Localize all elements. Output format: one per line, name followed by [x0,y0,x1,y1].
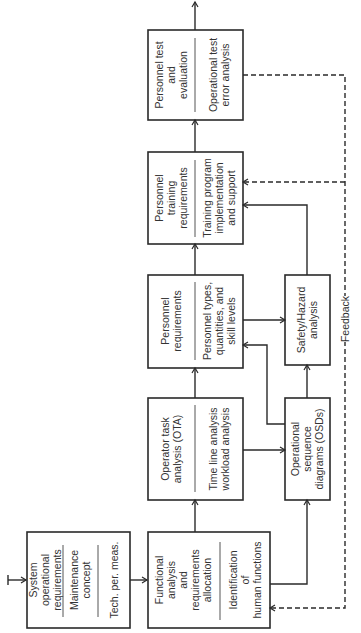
personnel-to-safety-arrow [243,317,285,323]
osd-to-safety-arrow [304,365,310,398]
ota-subtitle: Time line analysisworkload analysis [207,407,231,491]
input-arrow [8,575,26,585]
personnel-req-title: Personnelrequirements [159,290,183,351]
test-eval-subtitle: Operational testerror analysis [207,38,231,112]
safety-to-training-arrow [243,202,307,275]
func-to-osd-arrow [270,500,310,584]
feedback-label: Feedback [339,295,351,342]
node-system-operational-requirements [0,0,130,628]
flow-diagram: SystemoperationalrequirementsMaintenance… [0,0,361,633]
osd-to-personnel-arrow [243,342,285,424]
ota-to-osd-arrow [243,447,285,453]
system-ops-tech: Tech. per. meas. [108,541,120,618]
ota-title: Operator taskanalysis (OTA) [159,415,183,484]
